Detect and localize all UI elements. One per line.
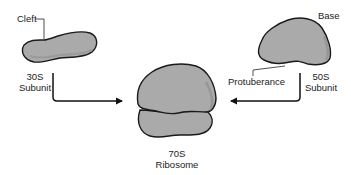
protuberance-label: Protuberance (228, 76, 285, 87)
50s-title: 50S (306, 71, 336, 82)
30s-subtitle: Subunit (14, 82, 56, 93)
30s-title: 30S (20, 71, 50, 82)
50s-subtitle: Subunit (300, 82, 342, 93)
protuberance-leader-line (253, 66, 285, 76)
70s-title: 70S (162, 148, 192, 159)
base-label: Base (318, 10, 340, 21)
30s-subunit-shape (22, 32, 96, 62)
cleft-label: Cleft (17, 13, 37, 24)
70s-ribosome-shape (138, 64, 216, 137)
70s-subtitle: Ribosome (152, 159, 202, 170)
arrow-30s-to-70s (53, 73, 122, 101)
50s-subunit-shape (259, 18, 331, 65)
